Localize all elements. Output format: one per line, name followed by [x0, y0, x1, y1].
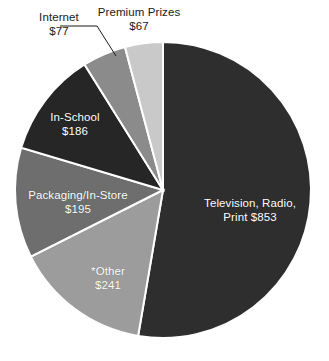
slice-label-internet-value: $77: [22, 24, 96, 38]
slice-label-television-line2: Print $853: [198, 210, 302, 224]
slice-label-premium-prizes-value: $67: [94, 19, 184, 33]
slice-label-in-school: In-School $186: [36, 110, 114, 138]
slice-label-packaging-in-store-value: $195: [17, 202, 139, 216]
slice-label-other-name: *Other: [72, 264, 144, 278]
slice-label-television: Television, Radio, Print $853: [198, 196, 302, 224]
slice-label-premium-prizes-name: Premium Prizes: [94, 5, 184, 19]
slice-label-other: *Other $241: [72, 264, 144, 292]
slice-label-packaging-in-store: Packaging/In-Store $195: [17, 188, 139, 216]
slice-label-internet: Internet $77: [22, 10, 96, 38]
pie-chart-svg: [0, 0, 329, 361]
slice-label-television-line1: Television, Radio,: [198, 196, 302, 210]
slice-label-in-school-value: $186: [36, 124, 114, 138]
slice-label-in-school-name: In-School: [36, 110, 114, 124]
pie-chart: Internet $77 Premium Prizes $67 Televisi…: [0, 0, 329, 361]
slice-label-premium-prizes: Premium Prizes $67: [94, 5, 184, 33]
slice-label-packaging-in-store-name: Packaging/In-Store: [17, 188, 139, 202]
slice-label-other-value: $241: [72, 278, 144, 292]
slice-label-internet-name: Internet: [22, 10, 96, 24]
